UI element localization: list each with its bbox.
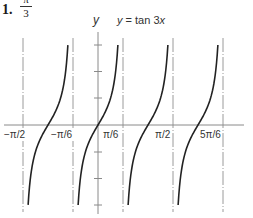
x-tick-label-pi-over-6: π/6 xyxy=(103,129,119,140)
x-tick-label-5pi-over-6: 5π/6 xyxy=(200,129,221,140)
x-tick-label-neg-pi-over-6: −π/6 xyxy=(51,129,73,140)
y-axis-label: y xyxy=(92,13,100,27)
x-tick-label-pi-over-2: π/2 xyxy=(155,129,171,140)
chart-title: y = tan 3x xyxy=(116,14,166,26)
tan-graph: −π/2 −π/6 π/6 π/2 5π/6 y y = tan 3x xyxy=(0,0,253,218)
x-tick-label-neg-pi-over-2: −π/2 xyxy=(4,129,26,140)
